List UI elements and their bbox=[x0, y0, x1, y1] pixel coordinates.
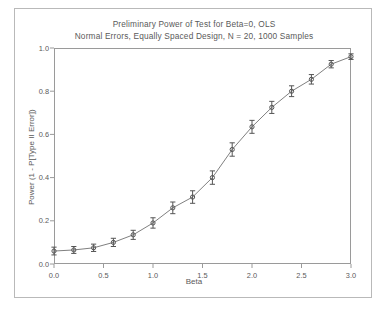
x-axis-tick-label: 3.0 bbox=[336, 271, 366, 280]
x-axis-tick-label: 0.0 bbox=[39, 271, 69, 280]
x-axis-tick-label: 0.5 bbox=[89, 271, 119, 280]
data-point bbox=[170, 202, 175, 214]
y-axis-tick-label: 0.8 bbox=[23, 87, 49, 96]
y-axis-tick-label: 0.2 bbox=[23, 216, 49, 225]
chart-canvas bbox=[15, 9, 373, 299]
data-point bbox=[71, 247, 76, 254]
y-axis-tick-label: 0.6 bbox=[23, 130, 49, 139]
y-axis-tick-label: 1.0 bbox=[23, 44, 49, 53]
data-point bbox=[329, 61, 334, 68]
data-point bbox=[111, 238, 116, 246]
y-axis-tick-label: 0.4 bbox=[23, 173, 49, 182]
data-point bbox=[289, 86, 294, 97]
x-axis-tick-label: 1.5 bbox=[188, 271, 218, 280]
x-axis-tick-label: 2.5 bbox=[287, 271, 317, 280]
data-point bbox=[269, 101, 274, 113]
chart-frame: Preliminary Power of Test for Beta=0, OL… bbox=[14, 8, 372, 298]
data-point bbox=[309, 75, 314, 85]
data-point bbox=[91, 244, 96, 251]
data-point bbox=[348, 54, 353, 60]
data-point bbox=[190, 191, 195, 204]
data-point bbox=[51, 247, 56, 255]
data-point bbox=[131, 230, 136, 239]
data-point bbox=[210, 171, 215, 184]
x-axis-tick-label: 2.0 bbox=[237, 271, 267, 280]
y-axis-tick-label: 0.0 bbox=[23, 260, 49, 269]
x-axis-tick-label: 1.0 bbox=[138, 271, 168, 280]
data-point bbox=[249, 120, 254, 133]
y-axis-title: Power (1 - P[Type II Error]) bbox=[27, 109, 36, 205]
data-point bbox=[230, 143, 235, 156]
data-point bbox=[150, 218, 155, 228]
